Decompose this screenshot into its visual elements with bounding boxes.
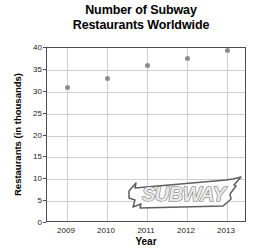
x-tick-label: 2013 — [206, 226, 246, 235]
chart-container: Number of Subway Restaurants Worldwide R… — [0, 0, 259, 252]
y-tick-label: 30 — [20, 87, 42, 96]
y-tick-label: 15 — [20, 152, 42, 161]
y-tick-label: 40 — [20, 43, 42, 52]
x-tick-label: 2009 — [46, 226, 86, 235]
y-tick-label: 10 — [20, 174, 42, 183]
y-tick-label: 20 — [20, 131, 42, 140]
chart-title-line-1: Number of Subway — [36, 3, 246, 18]
y-tick-mark — [43, 222, 46, 223]
svg-text:SUBWAY: SUBWAY — [142, 183, 227, 205]
gridline-vertical — [107, 48, 108, 221]
gridline-horizontal — [47, 136, 245, 137]
data-point — [225, 48, 230, 53]
subway-logo-icon: SUBWAY SUBWAY — [128, 176, 242, 210]
data-point — [65, 85, 70, 90]
chart-title: Number of Subway Restaurants Worldwide — [36, 3, 246, 33]
gridline-horizontal — [47, 157, 245, 158]
x-axis-label: Year — [46, 236, 246, 247]
gridline-horizontal — [47, 114, 245, 115]
x-tick-label: 2011 — [126, 226, 166, 235]
chart-title-line-2: Restaurants Worldwide — [36, 18, 246, 33]
data-point — [185, 56, 190, 61]
x-tick-label: 2010 — [86, 226, 126, 235]
y-tick-label: 35 — [20, 65, 42, 74]
y-tick-label: 25 — [20, 109, 42, 118]
data-point — [145, 63, 150, 68]
y-axis-label: Restaurants (in thousands) — [12, 47, 23, 223]
y-tick-label: 0 — [20, 218, 42, 227]
gridline-horizontal — [47, 70, 245, 71]
y-tick-label: 5 — [20, 196, 42, 205]
data-point — [105, 76, 110, 81]
gridline-horizontal — [47, 92, 245, 93]
gridline-vertical — [67, 48, 68, 221]
x-tick-label: 2012 — [166, 226, 206, 235]
